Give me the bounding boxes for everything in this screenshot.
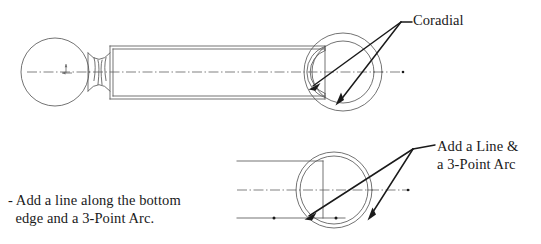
lower-edge-point-dot — [273, 217, 276, 220]
label-add-line-and-arc-line2: a 3-Point Arc — [437, 156, 516, 172]
lower-centerline-end-dot — [407, 189, 410, 192]
label-coradial: Coradial — [413, 12, 464, 30]
label-add-line-and-arc: Add a Line &a 3-Point Arc — [437, 138, 518, 173]
label-bottom-note-line2: edge and a 3-Point Arc. — [8, 210, 154, 226]
label-bottom-note-line1: - Add a line along the bottom — [8, 192, 181, 208]
label-bottom-note: - Add a line along the bottom edge and a… — [8, 192, 181, 227]
label-add-line-and-arc-line1: Add a Line & — [437, 138, 518, 154]
lower-edge-point-dot — [335, 217, 338, 220]
upper-centerline-end-dot — [402, 71, 405, 74]
